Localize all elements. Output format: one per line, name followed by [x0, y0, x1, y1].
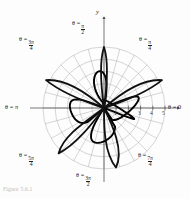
radial-tick-2: 2 — [126, 110, 129, 116]
theta-prefix: θ = — [5, 103, 13, 110]
radial-tick-1: 1 — [114, 110, 117, 116]
figure-caption: Figure 5.6.1 — [3, 186, 33, 192]
angle-label-theta-5pi-4: θ =5π4 — [19, 152, 35, 168]
angle-label-theta-pi-4: θ =π4 — [139, 36, 152, 52]
theta-value: π — [15, 103, 18, 110]
theta-prefix: θ = — [138, 151, 146, 158]
theta-prefix: θ = — [139, 35, 147, 42]
theta-prefix: θ = — [19, 35, 27, 42]
fraction-pi-4: π4 — [148, 40, 152, 53]
theta-prefix: θ = — [72, 19, 80, 26]
radial-tick-3: 3 — [138, 110, 141, 116]
radial-tick-5: 5 — [162, 110, 165, 116]
theta-prefix: θ = — [168, 103, 176, 110]
theta-prefix: θ = — [19, 151, 27, 158]
angle-label-theta-3pi-4: θ =3π4 — [19, 36, 35, 52]
angle-label-theta-3pi-2: θ =3π2 — [76, 172, 92, 188]
theta-value: 0 — [178, 103, 181, 110]
polar-plot-canvas — [0, 0, 190, 199]
radial-tick-4: 4 — [150, 110, 153, 116]
fraction-3pi-2: 3π2 — [85, 176, 92, 189]
fraction-7pi-4: 7π4 — [147, 156, 154, 169]
angle-label-theta-pi: θ = π — [5, 104, 18, 110]
angle-label-theta-pi-2: θ =π2 — [72, 20, 85, 36]
fraction-pi-2: π2 — [81, 24, 85, 37]
fraction-3pi-4: 3π4 — [28, 40, 35, 53]
polar-plot-figure: θ =π2 θ =3π4 θ =π4 θ = π θ = 0 θ =5π4 θ … — [0, 0, 190, 199]
theta-prefix: θ = — [76, 171, 84, 178]
angle-label-theta-0: θ = 0 — [168, 104, 181, 110]
fraction-5pi-4: 5π4 — [28, 156, 35, 169]
y-axis-label: y — [96, 8, 99, 15]
angle-label-theta-7pi-4: θ =7π4 — [138, 152, 154, 168]
